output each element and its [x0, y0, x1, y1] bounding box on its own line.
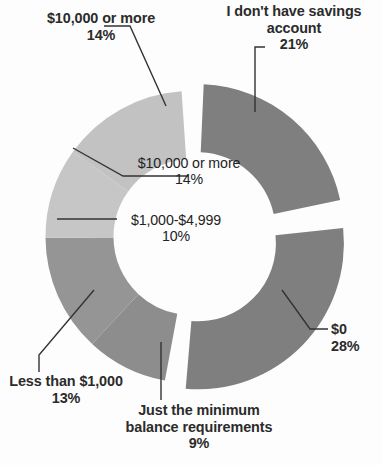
callout-label: $0 — [331, 321, 347, 337]
callout-minimum-balance: Just the minimum balance requirements 9% — [104, 402, 294, 452]
callout-10000-or-more-inner: $10,000 or more 14% — [130, 155, 248, 188]
callout-label: $1,000-$4,999 — [131, 212, 221, 228]
callout-label-line1: I don't have savings — [227, 3, 362, 19]
callout-label: $10,000 or more — [138, 155, 241, 171]
callout-1000-4999: $1,000-$4,999 10% — [120, 212, 232, 245]
callout-percent: 28% — [331, 338, 381, 355]
callout-label-line1: Just the minimum — [138, 402, 260, 418]
callout-10000-or-more-outer: $10,000 or more 14% — [6, 10, 196, 43]
callout-label-line2: balance requirements — [104, 419, 294, 436]
callout-percent: 9% — [104, 435, 294, 452]
callout-percent: 10% — [120, 228, 232, 244]
callout-label: Less than $1,000 — [9, 373, 123, 389]
callout-percent: 14% — [6, 27, 196, 44]
callout-percent: 14% — [130, 171, 248, 187]
callout-zero-dollars: $0 28% — [331, 321, 381, 354]
donut-slice-zero-dollars[interactable] — [186, 228, 344, 389]
donut-chart-figure: $10,000 or more 14% I don't have savings… — [0, 0, 383, 465]
callout-percent: 21% — [208, 36, 380, 53]
donut-slice-no-savings-account[interactable] — [201, 84, 340, 214]
callout-no-savings-account: I don't have savings account 21% — [208, 3, 380, 53]
callout-label: $10,000 or more — [47, 10, 155, 26]
callout-label-line2: account — [208, 20, 380, 37]
